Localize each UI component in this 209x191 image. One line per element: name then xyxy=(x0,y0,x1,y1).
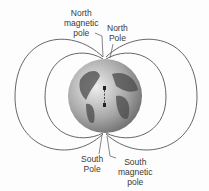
magnetic-field-diagram: North magnetic pole North Pole South Pol… xyxy=(0,0,209,191)
diagram-graphic xyxy=(0,0,209,191)
label-south-pole: South Pole xyxy=(81,154,103,174)
label-north-pole: North Pole xyxy=(107,23,128,43)
label-south-magnetic-pole: South magnetic pole xyxy=(118,157,153,187)
earth-globe xyxy=(68,59,142,133)
label-north-magnetic-pole: North magnetic pole xyxy=(64,8,99,38)
